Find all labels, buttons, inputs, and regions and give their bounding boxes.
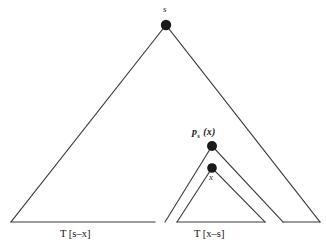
middle-triangle-right-edge [212, 146, 283, 222]
base-label-right: T [x–s] [194, 228, 224, 239]
node-ps-x-dot [207, 141, 217, 151]
figure-canvas: s ps (x) x T [s–x] T [x–s] [0, 0, 326, 252]
outer-triangle-right-edge [166, 25, 320, 222]
node-x-label: x [209, 172, 213, 182]
base-label-left: T [s–x] [60, 228, 90, 239]
node-ps-x-label: ps (x) [192, 126, 216, 140]
middle-triangle-left-edge [165, 146, 212, 222]
node-s-label: s [163, 4, 167, 14]
node-s-dot [161, 20, 171, 30]
tree-diagram-svg [0, 0, 326, 252]
node-ps-x-label-argument: (x) [200, 126, 215, 137]
outer-triangle-left-edge [11, 25, 166, 222]
